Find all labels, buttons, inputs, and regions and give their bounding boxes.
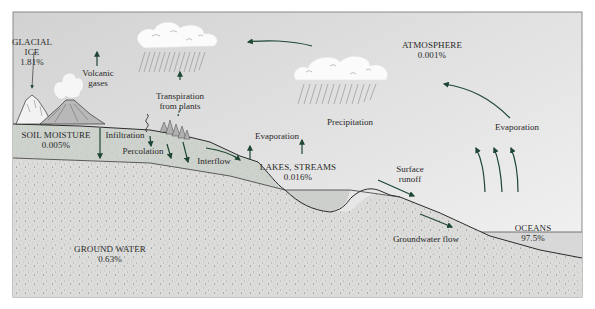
ground-water-label: GROUND WATER 0.63% — [70, 244, 150, 264]
oceans-label: OCEANS 97.5% — [508, 223, 558, 243]
percolation-label: Percolation — [118, 146, 168, 156]
groundwater-flow-label: Groundwater flow — [388, 234, 464, 244]
evaporation-ocean-label: Evaporation — [490, 122, 544, 132]
transpiration-label: Transpiration from plants — [148, 91, 212, 111]
evaporation-land-label: Evaporation — [250, 131, 304, 141]
infiltration-label: Infiltration — [102, 130, 148, 140]
atmosphere-label: ATMOSPHERE 0.001% — [392, 40, 472, 60]
glacial-ice-label: GLACIAL ICE 1.81% — [4, 37, 60, 67]
surface-runoff-label: Surface runoff — [390, 164, 430, 184]
volcanic-gases-label: Volcanic gases — [78, 68, 118, 88]
interflow-label: Interflow — [192, 156, 236, 166]
precipitation-label: Precipitation — [320, 117, 380, 127]
lakes-streams-label: LAKES, STREAMS 0.016% — [258, 162, 338, 182]
water-cycle-diagram: GLACIAL ICE 1.81% Volcanic gases Transpi… — [0, 0, 595, 309]
soil-moisture-label: SOIL MOISTURE 0.005% — [14, 130, 98, 150]
